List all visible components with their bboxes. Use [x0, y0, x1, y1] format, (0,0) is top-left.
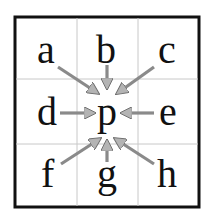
label-e: e	[159, 89, 177, 134]
label-p: p	[97, 89, 117, 134]
label-a: a	[37, 27, 55, 72]
neighborhood-diagram: a b c d p e f g h	[0, 0, 208, 221]
label-c: c	[158, 27, 176, 72]
label-b: b	[96, 27, 116, 72]
label-f: f	[41, 151, 55, 196]
label-d: d	[37, 89, 57, 134]
label-g: g	[97, 151, 117, 196]
label-h: h	[157, 151, 177, 196]
